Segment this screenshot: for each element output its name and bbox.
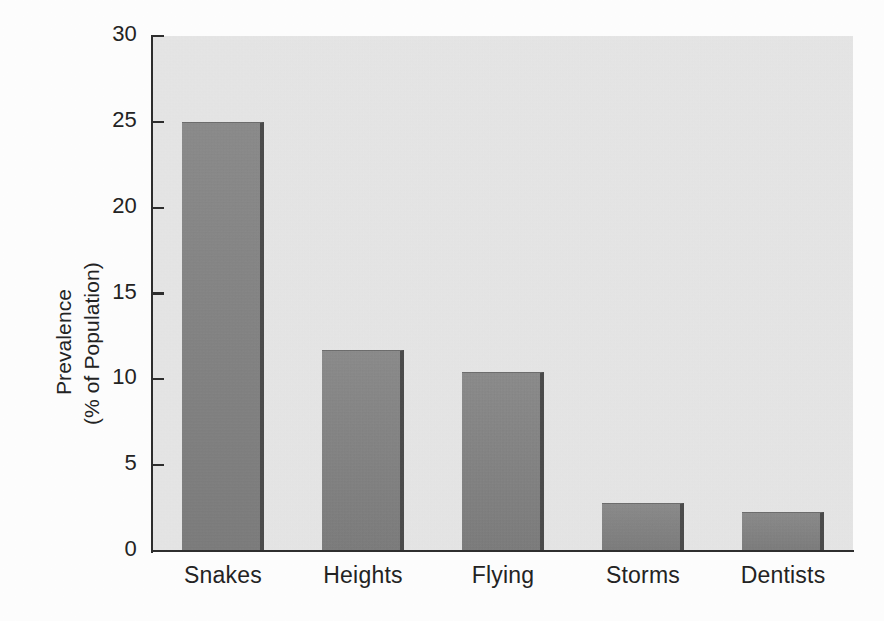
x-category-label: Storms [573, 562, 713, 589]
y-tick-label: 30 [93, 21, 137, 47]
bar-snakes [182, 122, 264, 551]
bar-chart-figure: 051015202530 Prevalence (% of Population… [0, 0, 884, 621]
y-tick-mark [153, 464, 164, 466]
y-tick-mark [153, 207, 164, 209]
y-tick-label: 5 [93, 450, 137, 476]
y-tick-mark [153, 292, 164, 294]
y-tick-mark [153, 550, 164, 552]
x-category-label: Snakes [153, 562, 293, 589]
bar-heights [322, 350, 404, 551]
bar-storms [602, 503, 684, 551]
x-category-label: Flying [433, 562, 573, 589]
y-tick-mark [153, 378, 164, 380]
y-tick-mark [153, 35, 164, 37]
y-tick-label: 15 [93, 279, 137, 305]
x-category-label: Dentists [713, 562, 853, 589]
y-tick-label: 10 [93, 364, 137, 390]
x-axis-line [151, 550, 854, 552]
y-axis-title: Prevalence (% of Population) [0, 0, 160, 621]
bar-flying [462, 372, 544, 551]
plot-area [153, 36, 853, 551]
x-category-label: Heights [293, 562, 433, 589]
y-tick-mark [153, 121, 164, 123]
bar-dentists [742, 512, 824, 551]
y-tick-label: 0 [93, 536, 137, 562]
y-tick-label: 20 [93, 193, 137, 219]
y-axis-title-line-1: Prevalence [52, 289, 76, 395]
y-tick-label: 25 [93, 107, 137, 133]
